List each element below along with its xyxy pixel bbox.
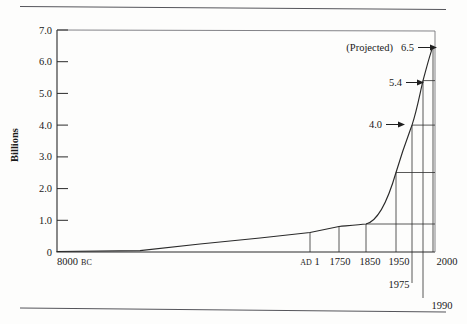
x-tick-labels: 8000BC AD1 1750 1850 1950 2000 xyxy=(57,256,458,267)
population-curve xyxy=(57,46,433,251)
ytick-label-0: 0 xyxy=(47,247,52,258)
annotation-54: 5.4 xyxy=(389,77,424,88)
annotation-value-40: 4.0 xyxy=(369,119,382,130)
xtick-label-ad1: AD1 xyxy=(300,256,320,267)
xtick-label-1975: 1975 xyxy=(389,279,410,290)
xtick-label-1850: 1850 xyxy=(360,256,381,267)
arrow-head-65 xyxy=(430,45,437,51)
xtick-label-2000: 2000 xyxy=(437,256,458,267)
annotation-value-54: 5.4 xyxy=(389,77,403,88)
ytick-label-7: 7.0 xyxy=(39,25,52,36)
population-growth-chart: 7.0 6.0 5.0 4.0 3.0 2.0 1.0 0 Billions xyxy=(0,0,467,324)
arrow-head-40 xyxy=(398,122,405,128)
ytick-label-5: 5.0 xyxy=(39,88,52,99)
y-tick-marks xyxy=(57,30,68,220)
xtick-label-1990: 1990 xyxy=(432,300,453,311)
annotation-projected-label: (Projected) xyxy=(346,42,393,54)
ytick-label-6: 6.0 xyxy=(39,56,52,67)
annotation-40: 4.0 xyxy=(369,119,405,130)
ytick-label-1: 1.0 xyxy=(39,215,52,226)
xtick-label-1950: 1950 xyxy=(389,256,410,267)
top-rule xyxy=(20,7,446,10)
plot-frame xyxy=(57,30,435,252)
population-growth-figure: 7.0 6.0 5.0 4.0 3.0 2.0 1.0 0 Billions xyxy=(0,0,467,324)
bottom-rule xyxy=(20,308,446,312)
ytick-label-3: 3.0 xyxy=(39,151,52,162)
xtick-label-1750: 1750 xyxy=(330,256,351,267)
ytick-label-4: 4.0 xyxy=(39,120,52,131)
xtick-label-8000bc: 8000BC xyxy=(57,256,92,267)
annotation-projected-65: (Projected) 6.5 xyxy=(346,42,437,54)
plot-axes xyxy=(57,30,435,252)
annotation-value-65: 6.5 xyxy=(401,42,414,53)
ytick-label-2: 2.0 xyxy=(39,183,52,194)
horizontal-reference-lines xyxy=(366,81,435,224)
y-axis-title: Billions xyxy=(9,128,20,162)
